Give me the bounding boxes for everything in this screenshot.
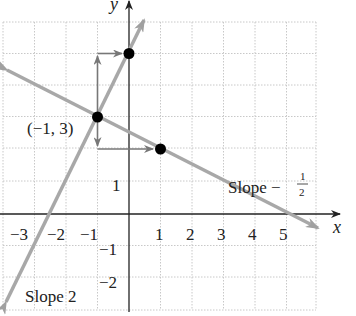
- svg-text:1: 1: [155, 225, 164, 244]
- x-axis-label: x: [332, 217, 341, 237]
- svg-text:2: 2: [186, 225, 195, 244]
- y-tick-labels: 1 −1 −2: [99, 176, 121, 292]
- point-0-5: [124, 48, 135, 59]
- point-neg1-3: [92, 112, 103, 123]
- svg-text:−1: −1: [80, 225, 98, 244]
- svg-text:Slope −: Slope −: [228, 178, 281, 197]
- svg-text:−2: −2: [47, 225, 65, 244]
- coordinate-plane: y x −3 −2 −1 1 2 3 4 5 1 −1 −2 (−1, 3) S…: [0, 0, 356, 316]
- svg-text:1: 1: [112, 176, 121, 195]
- svg-text:4: 4: [248, 225, 257, 244]
- slope-neg-half-label: Slope − 1 2: [228, 170, 308, 198]
- point-1-2: [155, 144, 166, 155]
- x-tick-labels: −3 −2 −1 1 2 3 4 5: [10, 225, 288, 244]
- point-label: (−1, 3): [27, 119, 73, 138]
- svg-text:−2: −2: [99, 273, 117, 292]
- y-axis-label: y: [108, 0, 118, 14]
- svg-text:3: 3: [217, 225, 226, 244]
- svg-text:−3: −3: [10, 225, 28, 244]
- svg-text:−1: −1: [99, 240, 117, 259]
- slope-2-label: Slope 2: [25, 287, 76, 306]
- slope-2-line: [6, 20, 144, 302]
- svg-text:5: 5: [279, 225, 288, 244]
- grid: [3, 22, 316, 310]
- svg-text:1: 1: [300, 170, 306, 182]
- svg-text:2: 2: [299, 186, 305, 198]
